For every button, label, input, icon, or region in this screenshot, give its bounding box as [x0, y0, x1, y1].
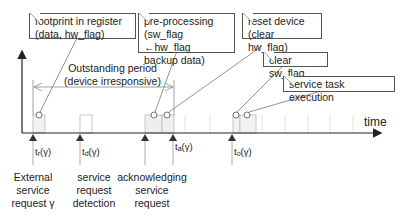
outstanding-line2: (device irresponsive) [55, 75, 170, 88]
tick-label-tr: tr(γ) [35, 146, 51, 157]
outstanding-line1: Outstanding period [55, 62, 170, 75]
note-text: reset device [248, 15, 316, 28]
note-reset-device: reset device (clear hw_flag) [242, 13, 322, 39]
note-footprint: footprint in register (data, hw_flag) [29, 13, 136, 39]
note-text: (sw_flag ←hw_flag [144, 28, 229, 54]
note-preprocessing: pre-processing (sw_flag ←hw_flag backup … [138, 13, 235, 53]
note-service-task: service task execution [283, 76, 395, 92]
tick-label-td: td(γ) [82, 146, 100, 157]
note-text: service task execution [289, 78, 389, 104]
time-slots [33, 115, 256, 133]
outstanding-period-label: Outstanding period (device irresponsive) [55, 62, 170, 88]
note-text: pre-processing [144, 15, 229, 28]
note-text: (data, hw_flag) [35, 28, 130, 41]
event-markers [36, 112, 250, 118]
event-acknowledging-request: acknowledging service request [112, 171, 192, 210]
note-text: footprint in register [35, 15, 130, 28]
note-text: (clear hw_flag) [248, 28, 316, 54]
tick-label-ta: ta(γ) [175, 141, 193, 152]
tick-arrows [33, 138, 232, 165]
tick-label-to: to(γ) [234, 146, 252, 157]
note-clear-sw-flag: clear sw_flag [263, 52, 328, 67]
grid-lines [185, 115, 353, 133]
event-external-request: External service request γ [3, 171, 63, 210]
time-axis-label: time [364, 116, 387, 129]
